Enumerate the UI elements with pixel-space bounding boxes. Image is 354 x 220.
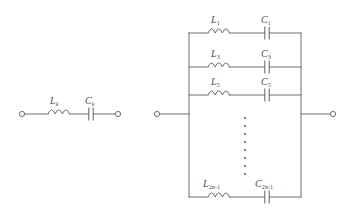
left-circuit-inductor-label: Lk xyxy=(50,96,58,106)
left-circuit-capacitor-label: Ck xyxy=(85,96,95,106)
branch-3-inductor-coil xyxy=(208,91,230,95)
right-circuit-terminal-right xyxy=(330,111,335,116)
branch-3-capacitor-label: C5 xyxy=(261,77,271,87)
right-circuit-group xyxy=(154,27,335,204)
branch-n-inductor-coil xyxy=(208,193,230,197)
branch-n-group xyxy=(189,191,301,204)
branch-2-inductor-coil xyxy=(208,63,230,67)
left-circuit-group xyxy=(19,108,120,121)
circuit-diagram-figure: Lk Ck L1 C1 L3 C3 L5 C5 L2n-1 C2n-1 xyxy=(0,0,354,220)
branch-1-inductor-label: L1 xyxy=(211,15,220,25)
left-circuit-inductor-coil xyxy=(48,110,70,114)
left-circuit-terminal-left xyxy=(19,111,24,116)
branch-1-group xyxy=(189,27,301,40)
diagram-canvas xyxy=(0,0,354,220)
branch-2-group xyxy=(189,61,301,74)
branch-2-inductor-label: L3 xyxy=(211,49,220,59)
branch-n-inductor-label: L2n-1 xyxy=(203,179,220,189)
branch-3-group xyxy=(189,89,301,102)
branch-3-inductor-label: L5 xyxy=(211,77,220,87)
left-circuit-terminal-right xyxy=(115,111,120,116)
branch-n-capacitor-label: C2n-1 xyxy=(255,179,273,189)
right-circuit-terminal-left xyxy=(154,111,159,116)
branch-1-inductor-coil xyxy=(208,29,230,33)
branch-1-capacitor-label: C1 xyxy=(261,15,271,25)
branch-ellipsis xyxy=(244,117,246,175)
branch-2-capacitor-label: C3 xyxy=(261,49,271,59)
